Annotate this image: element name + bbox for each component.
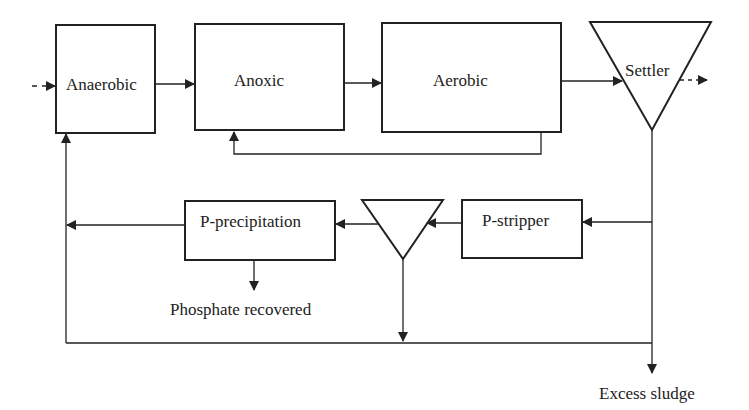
- excess-sludge-label: Excess sludge: [599, 385, 695, 402]
- internal-recycle-line: [234, 132, 541, 154]
- thickener-triangle: [362, 200, 443, 259]
- p-stripper-label: P-stripper: [482, 212, 549, 229]
- aerobic-label: Aerobic: [433, 72, 488, 89]
- anoxic-label: Anoxic: [234, 72, 284, 89]
- settler-label: Settler: [625, 62, 669, 79]
- anaerobic-label: Anaerobic: [66, 76, 137, 93]
- p-precipitation-label: P-precipitation: [200, 213, 301, 230]
- phosphate-recovered-label: Phosphate recovered: [170, 301, 311, 318]
